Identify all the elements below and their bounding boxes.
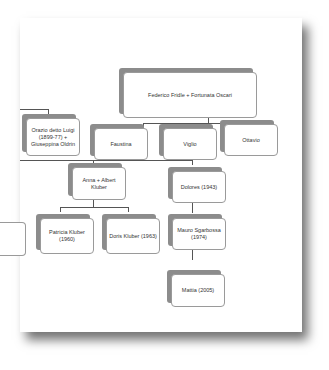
- paper-page: [20, 18, 302, 332]
- node-label: Dolores (1943): [181, 184, 217, 191]
- node-label: Mattia (2005): [182, 287, 214, 294]
- node-orazio[interactable]: Orazio detto Luigi (1899-77) + Giuseppin…: [26, 118, 80, 156]
- node-mattia[interactable]: Mattia (2005): [171, 274, 225, 307]
- connector: [20, 109, 48, 110]
- node-partial-left[interactable]: [0, 222, 26, 256]
- node-anna-albert[interactable]: Anna + Albert Kluber: [72, 167, 126, 200]
- node-mauro[interactable]: Mauro Sgarbossa (1974): [172, 218, 226, 250]
- node-dolores[interactable]: Dolores (1943): [172, 171, 226, 203]
- connector: [192, 160, 193, 165]
- node-patricia[interactable]: Patricia Kluber (1960): [40, 218, 94, 254]
- node-label: Viglio: [183, 141, 196, 148]
- connector: [60, 207, 128, 208]
- node-label: Anna + Albert Kluber: [74, 177, 124, 191]
- connector: [192, 250, 193, 260]
- node-label: Mauro Sgarbossa (1974): [174, 227, 224, 241]
- node-label: Federico Fridle + Fortunata Oscari: [148, 92, 232, 99]
- connector: [192, 203, 193, 213]
- connector: [93, 200, 94, 207]
- node-label: Doris Kluber (1963): [109, 233, 157, 240]
- node-label: Faustina: [110, 141, 131, 148]
- node-viglio[interactable]: Viglio: [163, 128, 217, 160]
- node-doris[interactable]: Doris Kluber (1963): [106, 218, 160, 254]
- connector: [20, 160, 192, 161]
- node-root-couple[interactable]: Federico Fridle + Fortunata Oscari: [123, 72, 257, 118]
- node-label: Patricia Kluber (1960): [42, 229, 92, 243]
- node-label: Ottavio: [242, 137, 259, 144]
- node-label: Orazio detto Luigi (1899-77) + Giuseppin…: [28, 127, 78, 148]
- connector: [128, 207, 129, 212]
- node-ottavio[interactable]: Ottavio: [224, 124, 278, 156]
- connector: [60, 207, 61, 212]
- node-faustina[interactable]: Faustina: [94, 128, 148, 160]
